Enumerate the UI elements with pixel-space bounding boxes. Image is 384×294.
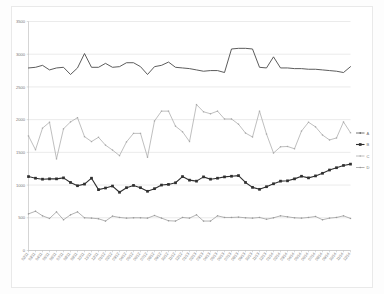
series-marker: [63, 219, 64, 220]
series-marker: [279, 180, 282, 183]
legend-label: A: [367, 131, 370, 136]
series-marker: [286, 179, 289, 182]
series-marker: [266, 133, 267, 134]
chart-container: 3500300025002000150010005000 02/1103/110…: [0, 0, 384, 294]
series-marker: [62, 177, 65, 180]
series-marker: [126, 217, 127, 218]
series-marker: [119, 155, 120, 156]
series-marker: [294, 148, 295, 149]
legend-swatch-marker: [360, 155, 361, 156]
x-tick-label: 12/14: [342, 251, 352, 262]
series-marker: [188, 179, 191, 182]
line-chart-plot: 3500300025002000150010005000 02/1103/110…: [0, 0, 384, 294]
series-marker: [273, 217, 274, 218]
series-marker: [196, 214, 197, 215]
data-series: [28, 104, 351, 160]
series-marker: [154, 215, 155, 216]
series-marker: [182, 131, 183, 132]
series-marker: [300, 175, 303, 178]
series-marker: [350, 218, 351, 219]
series-line: [29, 105, 351, 159]
series-marker: [203, 111, 204, 112]
series-marker: [56, 211, 57, 212]
series-marker: [76, 184, 79, 187]
series-marker: [35, 149, 36, 150]
series-marker: [251, 186, 254, 189]
series-marker: [308, 217, 309, 218]
series-marker: [280, 146, 281, 147]
series-marker: [322, 219, 323, 220]
series-marker: [272, 182, 275, 185]
series-marker: [307, 177, 310, 180]
series-line: [29, 164, 351, 192]
series-marker: [126, 141, 127, 142]
series-marker: [301, 130, 302, 131]
legend-swatch-marker: [359, 143, 362, 146]
series-marker: [48, 178, 51, 181]
y-tick-label: 3000: [16, 52, 26, 57]
series-marker: [182, 217, 183, 218]
data-series: [29, 48, 351, 74]
y-tick-label: 1000: [16, 183, 26, 188]
series-marker: [343, 121, 344, 122]
series-line: [29, 211, 351, 221]
data-series-group: [27, 48, 352, 221]
series-marker: [210, 220, 211, 221]
legend-item[interactable]: C: [356, 154, 370, 159]
series-marker: [350, 132, 351, 133]
series-marker: [55, 178, 58, 181]
series-marker: [147, 157, 148, 158]
series-marker: [223, 176, 226, 179]
series-marker: [216, 177, 219, 180]
series-marker: [293, 178, 296, 181]
series-marker: [329, 139, 330, 140]
series-marker: [287, 216, 288, 217]
series-marker: [140, 217, 141, 218]
series-marker: [77, 117, 78, 118]
series-marker: [175, 220, 176, 221]
series-marker: [321, 172, 324, 175]
series-marker: [77, 211, 78, 212]
series-marker: [27, 175, 30, 178]
series-marker: [181, 175, 184, 178]
series-marker: [125, 186, 128, 189]
gridlines: [27, 22, 351, 251]
series-marker: [90, 177, 93, 180]
y-tick-label: 3500: [16, 19, 26, 24]
legend-swatch-marker: [360, 167, 361, 168]
series-marker: [160, 184, 163, 187]
series-marker: [245, 132, 246, 133]
series-marker: [49, 218, 50, 219]
series-marker: [287, 146, 288, 147]
series-marker: [224, 118, 225, 119]
series-marker: [189, 217, 190, 218]
series-marker: [56, 158, 57, 159]
data-series: [27, 163, 352, 194]
series-marker: [322, 134, 323, 135]
series-marker: [224, 217, 225, 218]
legend-item[interactable]: A: [356, 131, 370, 136]
series-marker: [217, 215, 218, 216]
series-marker: [196, 104, 197, 105]
series-marker: [153, 187, 156, 190]
series-marker: [314, 175, 317, 178]
series-marker: [301, 217, 302, 218]
series-marker: [244, 181, 247, 184]
legend-item[interactable]: B: [356, 142, 370, 147]
series-marker: [238, 216, 239, 217]
series-marker: [259, 110, 260, 111]
series-marker: [28, 213, 29, 214]
series-marker: [132, 184, 135, 187]
series-marker: [70, 121, 71, 122]
legend-label: D: [367, 165, 370, 170]
chart-axes: [29, 22, 351, 251]
series-marker: [42, 128, 43, 129]
legend-item[interactable]: D: [356, 165, 370, 170]
series-marker: [105, 220, 106, 221]
series-marker: [203, 220, 204, 221]
series-marker: [104, 187, 107, 190]
series-marker: [280, 215, 281, 216]
series-marker: [245, 217, 246, 218]
series-marker: [189, 141, 190, 142]
series-marker: [259, 217, 260, 218]
